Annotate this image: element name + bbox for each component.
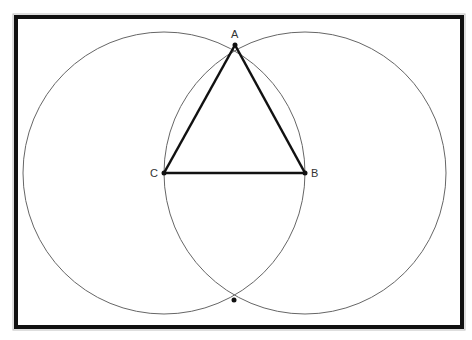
- diagram-svg: A B C: [0, 0, 472, 340]
- segment-ab: [235, 45, 305, 173]
- label-b: B: [311, 167, 318, 179]
- point-lower-intersection[interactable]: [232, 298, 237, 303]
- point-b[interactable]: [303, 171, 308, 176]
- label-c: C: [150, 167, 158, 179]
- segment-ca: [164, 45, 235, 173]
- point-c[interactable]: [162, 171, 167, 176]
- label-a: A: [231, 28, 239, 40]
- point-a[interactable]: [233, 43, 238, 48]
- construction-canvas: A B C: [0, 0, 472, 340]
